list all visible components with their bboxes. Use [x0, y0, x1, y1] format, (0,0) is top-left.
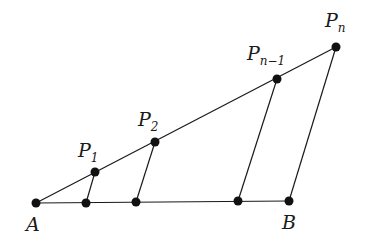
point-B — [285, 197, 294, 206]
line-A-Pn — [36, 47, 336, 203]
label-Pn: Pn — [324, 9, 346, 35]
line-Pn1-Qn1 — [238, 79, 277, 201]
line-Pn-B — [289, 47, 336, 201]
point-A — [32, 199, 41, 208]
line-P2-Q2 — [136, 142, 155, 202]
label-Pn-minus-1: Pn−1 — [246, 42, 285, 68]
label-P2: P2 — [137, 108, 158, 134]
point-Q2 — [132, 198, 141, 207]
label-P1: P1 — [77, 139, 98, 165]
line-A-B — [36, 201, 289, 203]
point-Qn1 — [234, 197, 243, 206]
label-B: B — [281, 211, 296, 233]
geometry-diagram: A B P1 P2 Pn−1 Pn — [0, 0, 367, 239]
point-Pn — [332, 43, 341, 52]
point-P1 — [91, 168, 100, 177]
point-Pn1 — [273, 75, 282, 84]
point-P2 — [151, 138, 160, 147]
point-Q1 — [82, 199, 91, 208]
label-A: A — [24, 213, 40, 235]
